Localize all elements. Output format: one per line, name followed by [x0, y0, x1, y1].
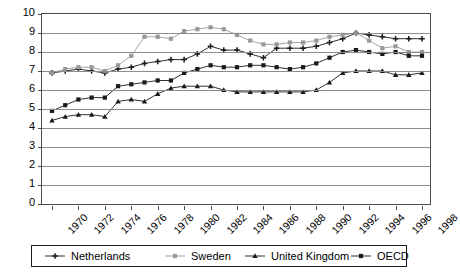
data-point	[155, 59, 161, 65]
y-axis-tick	[38, 71, 42, 72]
data-point	[76, 97, 80, 101]
data-point	[314, 61, 318, 65]
x-axis-tick-label: 1998	[435, 211, 460, 236]
data-point	[181, 57, 187, 63]
y-axis-tick	[38, 33, 42, 34]
data-point	[406, 36, 412, 42]
x-axis-tick-label: 1986	[276, 211, 301, 236]
y-axis-tick-label: 6	[5, 82, 35, 94]
data-point	[90, 65, 94, 69]
data-point	[129, 97, 134, 102]
data-point	[407, 54, 411, 58]
x-axis-tick-label: 1996	[408, 211, 433, 236]
data-point	[103, 96, 107, 100]
data-point	[208, 25, 212, 29]
x-axis-tick-label: 1984	[250, 211, 275, 236]
legend-item-netherlands[interactable]: Netherlands	[44, 250, 130, 262]
x-axis-tick-label: 1976	[144, 211, 169, 236]
data-point	[327, 80, 332, 85]
y-axis-tick	[38, 166, 42, 167]
y-axis-tick	[38, 185, 42, 186]
y-axis-tick-label: 1	[5, 177, 35, 189]
data-point	[275, 65, 279, 69]
y-axis-tick	[38, 128, 42, 129]
x-axis-tick-label: 1972	[91, 211, 116, 236]
data-point	[169, 37, 173, 41]
data-point	[90, 96, 94, 100]
data-point	[327, 40, 333, 46]
data-point	[420, 54, 424, 58]
y-axis-tick	[38, 90, 42, 91]
legend-label: Sweden	[191, 250, 231, 262]
y-axis-tick	[38, 147, 42, 148]
data-point	[208, 44, 214, 50]
data-point	[169, 78, 173, 82]
data-point	[327, 56, 331, 60]
y-axis-tick-label: 2	[5, 158, 35, 170]
data-point	[287, 45, 293, 51]
data-point	[168, 57, 174, 63]
legend-label: United Kingdom	[271, 250, 349, 262]
y-axis-tick-label: 9	[5, 25, 35, 37]
y-axis-tick-label: 5	[5, 101, 35, 113]
x-axis-tick-label: 1990	[329, 211, 354, 236]
legend-marker-icon	[164, 251, 186, 261]
y-axis-tick-label: 3	[5, 139, 35, 151]
data-point	[156, 78, 160, 82]
legend-marker-icon	[244, 251, 266, 261]
data-point	[419, 36, 425, 42]
data-point	[235, 65, 239, 69]
y-axis-tick-label: 4	[5, 120, 35, 132]
series-united-kingdom	[49, 68, 424, 122]
data-point	[248, 39, 252, 43]
plot-area	[41, 13, 431, 205]
data-point	[393, 36, 399, 42]
data-point	[116, 84, 120, 88]
y-axis-tick	[38, 52, 42, 53]
data-point	[275, 42, 279, 46]
legend-item-united-kingdom[interactable]: United Kingdom	[244, 250, 349, 262]
y-axis-tick-label: 0	[5, 196, 35, 208]
y-axis-tick	[38, 109, 42, 110]
legend-item-oecd[interactable]: OECD	[350, 250, 409, 262]
x-axis-tick-label: 1992	[356, 211, 381, 236]
x-axis-labels: 1970197219741976197819801982198419861988…	[41, 209, 431, 241]
data-point	[142, 80, 146, 84]
x-axis-tick-label: 1988	[303, 211, 328, 236]
data-point	[195, 27, 199, 31]
x-axis-tick-label: 1978	[171, 211, 196, 236]
legend-item-sweden[interactable]: Sweden	[164, 250, 231, 262]
data-point	[248, 63, 252, 67]
y-axis-tick-label: 7	[5, 63, 35, 75]
data-point	[222, 65, 226, 69]
y-axis-tick-label: 10	[5, 6, 35, 18]
legend-label: OECD	[377, 250, 409, 262]
gridline	[42, 109, 430, 110]
chart-legend: NetherlandsSwedenUnited KingdomOECD	[31, 245, 407, 267]
y-axis-tick-label: 8	[5, 44, 35, 56]
data-point	[288, 40, 292, 44]
gridline	[42, 90, 430, 91]
data-point	[327, 35, 331, 39]
legend-label: Netherlands	[71, 250, 130, 262]
data-point	[129, 54, 133, 58]
y-axis-tick	[38, 204, 42, 205]
data-point	[142, 61, 148, 67]
x-axis-tick-label: 1982	[223, 211, 248, 236]
data-point	[116, 63, 120, 67]
gridline	[42, 147, 430, 148]
data-point	[314, 39, 318, 43]
gridline	[42, 185, 430, 186]
data-point	[301, 65, 305, 69]
data-point	[313, 44, 319, 50]
data-point	[380, 46, 384, 50]
x-axis-tick-label: 1994	[382, 211, 407, 236]
series-line	[52, 50, 422, 111]
data-point	[76, 65, 80, 69]
data-point	[208, 63, 212, 67]
data-point	[129, 82, 133, 86]
x-axis-tick-label: 1974	[118, 211, 143, 236]
data-point	[222, 27, 226, 31]
legend-marker-icon	[350, 251, 372, 261]
